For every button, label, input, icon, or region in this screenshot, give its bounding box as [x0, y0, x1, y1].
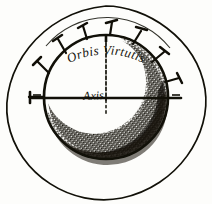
axis-label-group: Axis	[82, 88, 105, 103]
engraving-plate: Orbis Virtutis Axis	[0, 0, 212, 204]
spike-4	[106, 20, 117, 35]
axis-label: Axis	[82, 88, 105, 103]
diagram-canvas: Orbis Virtutis Axis	[0, 0, 212, 204]
spike-7	[165, 73, 182, 83]
spike-6	[152, 47, 169, 62]
spike-2	[53, 35, 66, 53]
spike-3	[78, 23, 87, 39]
spike-5	[133, 27, 147, 44]
spike-1	[33, 57, 49, 73]
